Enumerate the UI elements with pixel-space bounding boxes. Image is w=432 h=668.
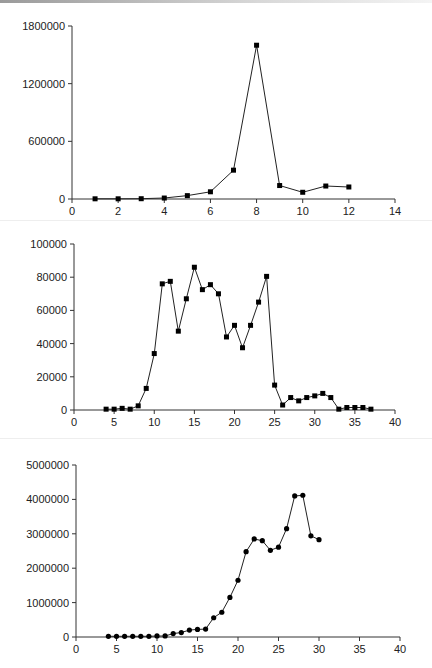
x-tick-label: 10: [151, 643, 163, 655]
data-point-marker: [104, 407, 109, 412]
data-point-marker: [252, 536, 257, 541]
data-point-marker: [192, 265, 197, 270]
data-point-marker: [336, 407, 341, 412]
x-tick-label: 8: [254, 205, 260, 217]
data-point-marker: [323, 184, 328, 189]
data-point-marker: [179, 630, 184, 635]
data-point-marker: [248, 323, 253, 328]
data-point-marker: [284, 526, 289, 531]
data-point-marker: [138, 634, 143, 639]
x-tick-label: 0: [71, 416, 77, 428]
data-point-marker: [130, 634, 135, 639]
data-point-marker: [106, 634, 111, 639]
data-point-marker: [116, 196, 121, 201]
series-line: [95, 45, 349, 199]
data-point-marker: [368, 407, 373, 412]
data-point-marker: [320, 391, 325, 396]
data-point-marker: [144, 386, 149, 391]
data-point-marker: [360, 405, 365, 410]
x-tick-label: 12: [343, 205, 355, 217]
data-point-marker: [300, 190, 305, 195]
data-point-marker: [152, 351, 157, 356]
data-point-marker: [146, 634, 151, 639]
data-point-marker: [187, 628, 192, 633]
y-tick-label: 0: [63, 631, 69, 643]
data-point-marker: [93, 196, 98, 201]
y-tick-label: 40000: [36, 338, 67, 350]
data-point-marker: [256, 300, 261, 305]
x-tick-label: 0: [73, 643, 79, 655]
data-point-marker: [272, 383, 277, 388]
data-point-marker: [346, 184, 351, 189]
x-tick-label: 25: [269, 416, 281, 428]
data-point-marker: [208, 189, 213, 194]
chart-divider: [0, 220, 432, 221]
x-tick-label: 10: [148, 416, 160, 428]
y-tick-label: 80000: [36, 271, 67, 283]
data-point-marker: [219, 610, 224, 615]
data-point-marker: [244, 549, 249, 554]
data-point-marker: [268, 548, 273, 553]
data-point-marker: [195, 627, 200, 632]
data-point-marker: [316, 537, 321, 542]
data-point-marker: [114, 634, 119, 639]
data-point-marker: [231, 168, 236, 173]
x-tick-label: 14: [389, 205, 401, 217]
x-tick-label: 40: [394, 643, 406, 655]
data-point-marker: [300, 493, 305, 498]
y-tick-label: 1000000: [26, 597, 69, 609]
x-tick-label: 30: [309, 416, 321, 428]
x-tick-label: 15: [191, 643, 203, 655]
x-tick-label: 15: [188, 416, 200, 428]
data-point-marker: [168, 279, 173, 284]
x-tick-label: 40: [389, 416, 401, 428]
y-tick-label: 3000000: [26, 528, 69, 540]
x-tick-label: 35: [353, 643, 365, 655]
data-point-marker: [216, 291, 221, 296]
y-tick-label: 5000000: [26, 459, 69, 471]
x-tick-label: 25: [272, 643, 284, 655]
y-tick-label: 0: [59, 193, 65, 205]
x-tick-label: 30: [313, 643, 325, 655]
data-point-marker: [139, 196, 144, 201]
x-tick-label: 20: [232, 643, 244, 655]
y-tick-label: 100000: [30, 238, 67, 250]
data-point-marker: [200, 287, 205, 292]
x-tick-label: 0: [69, 205, 75, 217]
data-point-marker: [120, 406, 125, 411]
data-point-marker: [240, 345, 245, 350]
data-point-marker: [227, 595, 232, 600]
data-point-marker: [288, 395, 293, 400]
y-tick-label: 1200000: [22, 78, 65, 90]
data-point-marker: [122, 634, 127, 639]
data-point-marker: [162, 196, 167, 201]
data-point-marker: [211, 615, 216, 620]
y-tick-label: 2000000: [26, 562, 69, 574]
y-tick-label: 600000: [28, 135, 65, 147]
data-point-marker: [160, 281, 165, 286]
chart-2-line: 0200004000060000800001000000510152025303…: [0, 222, 432, 442]
y-tick-label: 60000: [36, 304, 67, 316]
data-point-marker: [312, 393, 317, 398]
data-point-marker: [185, 193, 190, 198]
data-point-marker: [163, 633, 168, 638]
x-tick-label: 5: [113, 643, 119, 655]
y-tick-label: 0: [61, 404, 67, 416]
data-point-marker: [235, 578, 240, 583]
data-point-marker: [232, 323, 237, 328]
data-point-marker: [328, 395, 333, 400]
data-point-marker: [352, 405, 357, 410]
x-tick-label: 4: [161, 205, 167, 217]
data-point-marker: [154, 633, 159, 638]
data-point-marker: [276, 545, 281, 550]
data-point-marker: [128, 407, 133, 412]
data-point-marker: [264, 274, 269, 279]
data-point-marker: [344, 405, 349, 410]
y-tick-label: 20000: [36, 371, 67, 383]
x-tick-label: 5: [111, 416, 117, 428]
chart-1-line: 06000001200000180000002468101214: [0, 0, 432, 220]
x-tick-label: 35: [349, 416, 361, 428]
data-point-marker: [171, 631, 176, 636]
data-point-marker: [112, 407, 117, 412]
data-point-marker: [280, 403, 285, 408]
